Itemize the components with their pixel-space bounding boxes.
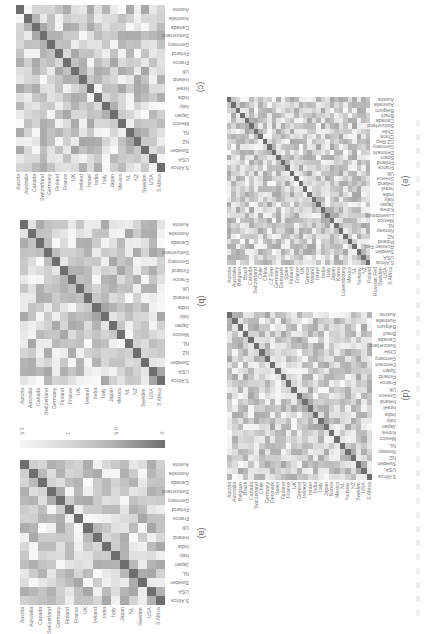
heatmap-cell: [40, 58, 48, 67]
heatmap-cell: [149, 14, 157, 23]
heatmap-cell: [74, 514, 83, 523]
heatmap-cell: [24, 93, 32, 102]
heatmap-cell: [44, 348, 52, 357]
heatmap-cell: [20, 312, 28, 321]
heatmap-cell: [93, 551, 102, 560]
heatmap-cell: [79, 137, 87, 146]
heatmap-cell: [55, 49, 63, 58]
heatmap-cell: [84, 321, 92, 330]
heatmap-cell: [156, 542, 165, 551]
heatmap-cell: [93, 514, 102, 523]
heatmap-cell: [118, 67, 126, 76]
heatmap-cell: [118, 14, 126, 23]
row-label: Austria: [167, 460, 189, 469]
heatmap-cell: [20, 533, 29, 542]
heatmap-cell: [52, 321, 60, 330]
heatmap-cell: [56, 514, 65, 523]
heatmap-cell: [20, 367, 28, 376]
heatmap-cell: [134, 84, 142, 93]
row-label: Israel: [374, 405, 396, 411]
heatmap-cell: [28, 367, 36, 376]
heatmap-cell: [20, 238, 28, 247]
heatmap-cell: [120, 460, 129, 469]
heatmap-cell: [74, 523, 83, 532]
heatmap-cell: [84, 284, 92, 293]
heatmap-cell: [93, 505, 102, 514]
heatmap-cell: [111, 496, 120, 505]
heatmap-cell: [74, 542, 83, 551]
heatmap-cell: [76, 266, 84, 275]
heatmap-cell: [134, 40, 142, 49]
heatmap-cell: [92, 248, 100, 257]
heatmap-cell: [125, 321, 133, 330]
heatmap-cell: [141, 137, 149, 146]
row-label: Italy: [167, 551, 189, 560]
heatmap-cell: [102, 514, 111, 523]
heatmap-cell: [20, 542, 29, 551]
heatmap-cell: [44, 358, 52, 367]
heatmap-cell: [44, 312, 52, 321]
heatmap-cell: [111, 560, 120, 569]
row-label: Sweden: [167, 146, 189, 155]
heatmap-cell: [55, 23, 63, 32]
col-labels-a: AustriaAustraliaCanadaSwitzerlandGermany…: [20, 607, 165, 634]
heatmap-cell: [93, 596, 102, 605]
heatmap-cell: [147, 551, 156, 560]
heatmap-cell: [65, 587, 74, 596]
heatmap-cell: [129, 514, 138, 523]
heatmap-cell: [47, 119, 55, 128]
heatmap-cell: [20, 587, 29, 596]
heatmap-cell: [129, 496, 138, 505]
heatmap-cell: [110, 58, 118, 67]
caption-a: (a): [197, 528, 207, 539]
heatmap-cell: [79, 5, 87, 14]
heatmap-cell: [92, 303, 100, 312]
heatmap-cell: [125, 238, 133, 247]
heatmap-cell: [134, 14, 142, 23]
heatmap-cell: [38, 478, 47, 487]
row-label: Italy: [167, 312, 189, 321]
heatmap-cell: [83, 587, 92, 596]
heatmap-cell: [93, 487, 102, 496]
heatmap-cell: [149, 293, 157, 302]
heatmap-cell: [60, 348, 68, 357]
heatmap-cell: [109, 293, 117, 302]
colorbar-tick-1-5: 1.5: [19, 427, 25, 435]
heatmap-cell: [157, 128, 165, 137]
heatmap-cell: [149, 248, 157, 257]
heatmap-cell: [79, 110, 87, 119]
heatmap-cell: [149, 321, 157, 330]
heatmap-cell: [133, 293, 141, 302]
heatmap-cell: [157, 40, 165, 49]
heatmap-cell: [157, 5, 165, 14]
row-label: Brazil: [374, 331, 396, 337]
heatmap-cell: [55, 5, 63, 14]
heatmap-cell: [71, 163, 79, 172]
heatmap-cell: [102, 551, 111, 560]
heatmap-cell: [117, 303, 125, 312]
heatmap-cell: [71, 119, 79, 128]
heatmap-cell: [101, 275, 109, 284]
heatmap-cell: [157, 49, 165, 58]
heatmap-cell: [56, 523, 65, 532]
heatmap-cell: [94, 146, 102, 155]
heatmap-cell: [101, 348, 109, 357]
heatmap-cell: [125, 220, 133, 229]
heatmap-cell: [47, 49, 55, 58]
heatmap-cell: [126, 163, 134, 172]
heatmap-cell: [16, 163, 24, 172]
heatmap-cell: [94, 67, 102, 76]
heatmap-cell: [94, 93, 102, 102]
heatmap-cell: [120, 469, 129, 478]
heatmap-cell: [93, 523, 102, 532]
heatmap-cell: [157, 284, 165, 293]
heatmap-cell: [56, 478, 65, 487]
heatmap-cell: [28, 330, 36, 339]
heatmap-cell: [29, 469, 38, 478]
heatmap-cell: [56, 587, 65, 596]
heatmap-cell: [79, 102, 87, 111]
heatmap-cell: [74, 496, 83, 505]
heatmap-cell: [126, 128, 134, 137]
heatmap-cell: [28, 284, 36, 293]
heatmap-cell: [156, 560, 165, 569]
